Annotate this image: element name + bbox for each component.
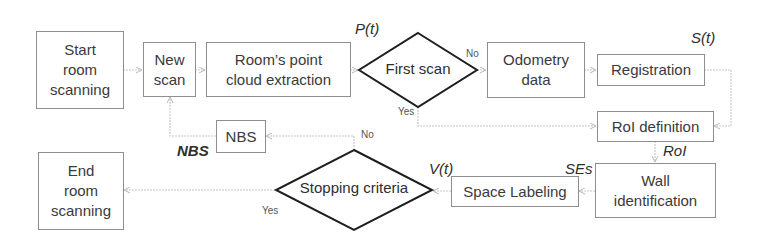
space-labeling-label: Space Labeling (463, 182, 566, 202)
odometry-label: Odometry data (503, 50, 569, 90)
registration-label: Registration (611, 60, 691, 80)
odometry-data-node: Odometry data (487, 42, 585, 98)
registration-node: Registration (597, 54, 705, 86)
space-labeling-node: Space Labeling (451, 176, 579, 207)
var-nbs-label: NBS (177, 142, 209, 159)
edge-stopping-nbs (266, 136, 354, 150)
wall-identification-node: Wall identification (595, 163, 716, 218)
var-st-label: S(t) (691, 29, 715, 46)
nbs-label: NBS (226, 127, 257, 147)
first-scan-no-label: No (466, 48, 479, 59)
end-node-label: End room scanning (51, 161, 111, 221)
roi-definition-node: RoI definition (597, 111, 714, 142)
var-ses-label: SEs (565, 160, 593, 177)
roi-definition-label: RoI definition (612, 117, 700, 137)
point-cloud-extraction-node: Room’s point cloud extraction (206, 42, 351, 97)
edge-nbs-newscan (170, 97, 216, 136)
first-scan-yes-label: Yes (398, 106, 414, 117)
end-room-scanning-node: End room scanning (38, 152, 124, 230)
nbs-node: NBS (216, 120, 266, 153)
stopping-yes-label: Yes (262, 205, 278, 216)
point-cloud-label: Room’s point cloud extraction (226, 50, 331, 90)
stopping-no-label: No (361, 129, 374, 140)
start-node-label: Start room scanning (50, 40, 110, 100)
first-scan-label: First scan (359, 60, 477, 77)
edge-firstscan-roi (418, 107, 596, 126)
start-room-scanning-node: Start room scanning (36, 31, 124, 109)
new-scan-label: New scan (154, 50, 186, 90)
stopping-criteria-label: Stopping criteria (276, 179, 432, 196)
flowchart-canvas: Start room scanning New scan Room’s poin… (0, 0, 762, 247)
var-roi-label: RoI (663, 142, 686, 159)
var-pt-label: P(t) (355, 20, 379, 37)
new-scan-node: New scan (143, 42, 196, 97)
wall-identification-label: Wall identification (614, 171, 697, 211)
var-vt-label: V(t) (429, 160, 453, 177)
